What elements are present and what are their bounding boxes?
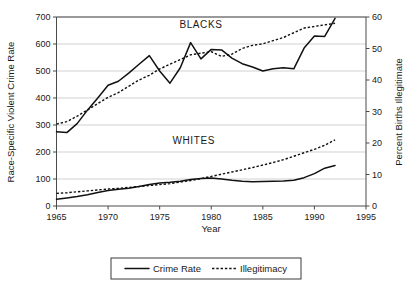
chart-background	[0, 0, 413, 297]
legend-label-crime-rate: Crime Rate	[153, 263, 201, 274]
x-axis-tick-label: 1995	[356, 212, 376, 222]
left-axis-tick-label: 500	[35, 66, 50, 76]
x-axis-tick-label: 1965	[46, 212, 66, 222]
left-axis-tick-label: 700	[35, 12, 50, 22]
right-axis-tick-label: 20	[372, 138, 382, 148]
group-annotation-blacks: BLACKS	[179, 19, 222, 30]
x-axis-tick-label: 1975	[150, 212, 170, 222]
left-axis-tick-label: 100	[35, 174, 50, 184]
left-axis-tick-label: 300	[35, 120, 50, 130]
right-axis-tick-label: 60	[372, 12, 382, 22]
chart-figure: 0100200300400500600700 0102030405060 196…	[0, 0, 413, 297]
right-axis-tick-label: 0	[372, 201, 377, 211]
right-axis-tick-label: 30	[372, 107, 382, 117]
y-axis-right-title: Percent Births Illegitimate	[393, 58, 404, 166]
left-axis-tick-label: 200	[35, 147, 50, 157]
x-axis-title: Year	[201, 223, 220, 234]
left-axis-tick-label: 600	[35, 39, 50, 49]
x-axis-tick-label: 1990	[304, 212, 324, 222]
x-axis-tick-label: 1970	[98, 212, 118, 222]
left-axis-tick-label: 0	[45, 201, 50, 211]
group-annotation-whites: WHITES	[172, 135, 215, 146]
x-axis-tick-label: 1985	[253, 212, 273, 222]
chart-legend: Crime RateIllegitimacy	[111, 258, 301, 279]
right-axis-tick-label: 40	[372, 75, 382, 85]
x-axis-tick-label: 1980	[201, 212, 221, 222]
right-axis-tick-label: 10	[372, 170, 382, 180]
left-axis-tick-label: 400	[35, 93, 50, 103]
legend-label-illegitimacy: Illegitimacy	[240, 263, 287, 274]
race-crime-illegitimacy-line-chart: 0100200300400500600700 0102030405060 196…	[0, 0, 413, 297]
y-axis-left-title: Race-Specific Violent Crime Rate	[5, 42, 16, 183]
right-axis-tick-label: 50	[372, 44, 382, 54]
